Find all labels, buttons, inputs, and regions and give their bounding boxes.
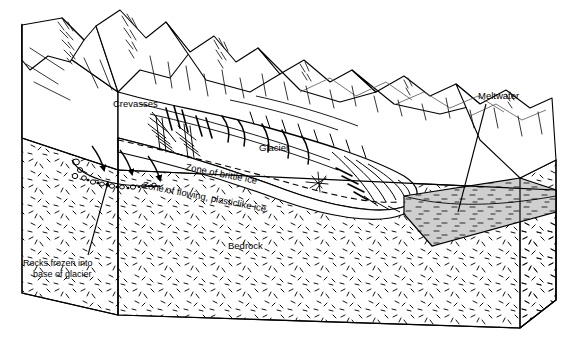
label-meltwater: Meltwater [478,90,519,101]
diagram-canvas: Crevasses Glacier Meltwater Zone of brit… [0,0,578,337]
label-glacier: Glacier [259,142,289,153]
glacier-block-diagram: Crevasses Glacier Meltwater Zone of brit… [0,0,578,337]
label-crevasses: Crevasses [113,98,158,109]
label-bedrock: Bedrock [228,240,263,251]
label-rocks-line2: base of glacier [33,269,92,279]
label-rocks-line1: Rocks frozen into [23,258,93,268]
